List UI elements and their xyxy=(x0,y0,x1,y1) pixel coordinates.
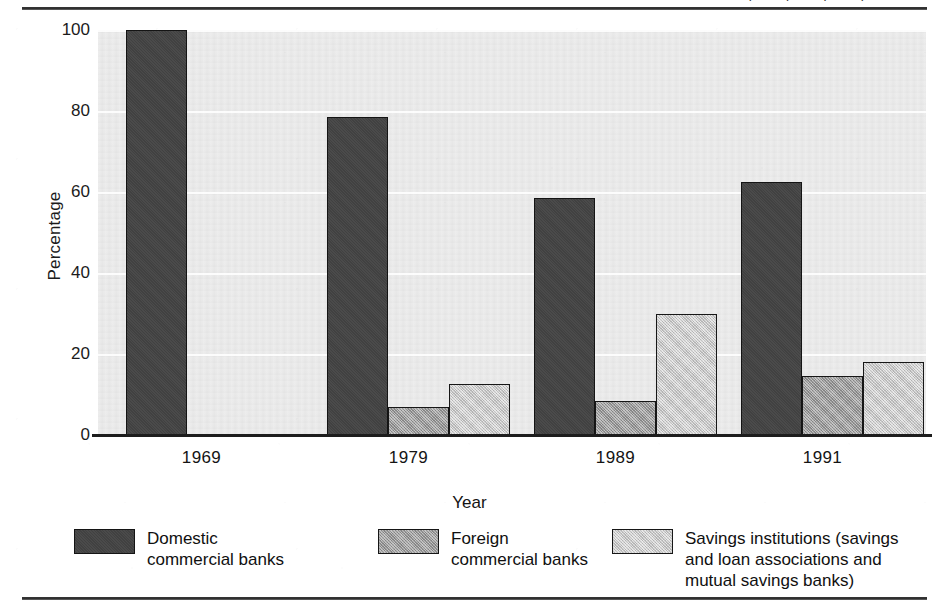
y-axis-tick-label: 20 xyxy=(32,344,90,364)
bar-1989-dark xyxy=(534,198,595,435)
legend-label-savings: Savings institutions (savings and loan a… xyxy=(685,528,899,591)
gridline xyxy=(98,111,926,113)
chart-legend: Domestic commercial banks Foreign commer… xyxy=(0,528,939,594)
gridline xyxy=(98,30,926,32)
x-axis-tick-label: 1989 xyxy=(536,448,696,468)
y-axis-tick-label: 60 xyxy=(32,182,90,202)
x-axis-tick-label: 1969 xyxy=(122,448,282,468)
y-axis-tick-label: 100 xyxy=(32,20,90,40)
top-divider-rule xyxy=(22,7,927,10)
plot-area xyxy=(98,30,926,435)
legend-label-domestic: Domestic commercial banks xyxy=(147,528,284,570)
bar-1991-dark xyxy=(741,182,802,435)
figure-title-clipped: COMPARING, 1969, 1979, 1989, AND 1991 xyxy=(430,0,930,6)
bottom-divider-rule xyxy=(22,597,927,600)
y-axis: Percentage 020406080100 xyxy=(24,30,90,435)
y-axis-tick-label: 40 xyxy=(32,263,90,283)
bar-1989-light xyxy=(656,314,717,436)
y-axis-tick-label: 0 xyxy=(32,425,90,445)
y-axis-title: Percentage xyxy=(45,156,65,316)
figure-title-text: COMPARING, 1969, 1979, 1989, AND 1991 xyxy=(430,0,930,2)
legend-swatch-domestic-icon xyxy=(74,529,135,554)
figure-page: COMPARING, 1969, 1979, 1989, AND 1991 Pe… xyxy=(0,0,939,613)
legend-label-foreign: Foreign commercial banks xyxy=(451,528,588,570)
x-axis-tick-label: 1991 xyxy=(743,448,903,468)
x-axis-baseline xyxy=(92,434,932,437)
bar-1969-dark xyxy=(126,30,187,435)
bar-1991-mid xyxy=(802,376,863,435)
bar-1979-dark xyxy=(327,117,388,435)
bar-1979-mid xyxy=(388,407,449,435)
bar-1989-mid xyxy=(595,401,656,435)
bar-1991-light xyxy=(863,362,924,435)
legend-swatch-savings-icon xyxy=(612,529,673,554)
legend-swatch-foreign-icon xyxy=(378,529,439,554)
legend-item-savings: Savings institutions (savings and loan a… xyxy=(612,528,939,591)
x-axis-tick-label: 1979 xyxy=(329,448,489,468)
x-axis-title: Year xyxy=(0,493,939,513)
legend-item-domestic: Domestic commercial banks xyxy=(74,528,374,570)
bar-1979-light xyxy=(449,384,510,435)
y-axis-tick-label: 80 xyxy=(32,101,90,121)
